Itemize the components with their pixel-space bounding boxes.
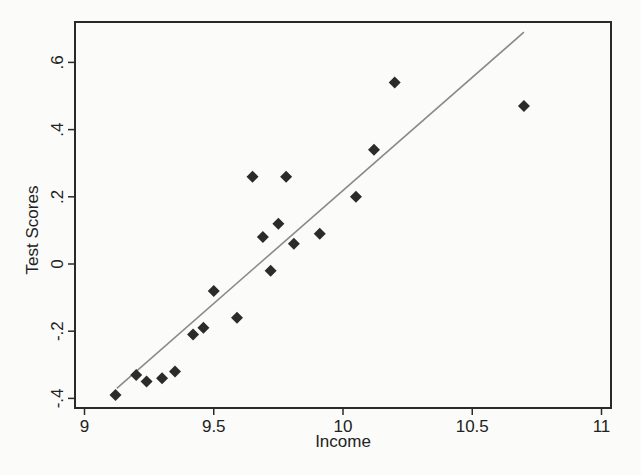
data-point-diamond: [518, 100, 530, 112]
x-tick-label: 10.5: [456, 417, 489, 436]
x-axis-title: Income: [315, 432, 371, 451]
x-tick-label: 9.5: [202, 417, 226, 436]
scatter-chart: 99.51010.511 -.4-.20.2.4.6 Income Test S…: [0, 0, 641, 475]
y-axis-title: Test Scores: [23, 186, 42, 275]
y-axis: -.4-.20.2.4.6: [48, 55, 75, 408]
data-point-diamond: [208, 285, 220, 297]
data-point-diamond: [141, 376, 153, 388]
fitted-line: [117, 32, 524, 388]
data-point-diamond: [156, 372, 168, 384]
data-point-diamond: [231, 312, 243, 324]
data-points: [110, 77, 530, 401]
data-point-diamond: [368, 144, 380, 156]
x-tick-label: 9: [80, 417, 89, 436]
data-point-diamond: [389, 77, 401, 89]
data-point-diamond: [257, 231, 269, 243]
data-point-diamond: [350, 191, 362, 203]
data-point-diamond: [272, 218, 284, 230]
data-point-diamond: [314, 228, 326, 240]
plot-frame: [75, 22, 611, 408]
data-point-diamond: [280, 171, 292, 183]
data-point-diamond: [110, 389, 122, 401]
data-point-diamond: [130, 369, 142, 381]
x-tick-label: 11: [593, 417, 611, 436]
data-point-diamond: [247, 171, 259, 183]
data-point-diamond: [265, 265, 277, 277]
y-tick-label: 0: [48, 259, 67, 268]
data-point-diamond: [288, 238, 300, 250]
y-tick-label: .6: [48, 55, 67, 69]
y-tick-label: -.2: [48, 321, 67, 341]
data-point-diamond: [197, 322, 209, 334]
y-tick-label: .2: [48, 190, 67, 204]
data-point-diamond: [169, 366, 181, 378]
data-point-diamond: [187, 329, 199, 341]
y-tick-label: -.4: [48, 388, 67, 408]
y-tick-label: .4: [48, 123, 67, 137]
